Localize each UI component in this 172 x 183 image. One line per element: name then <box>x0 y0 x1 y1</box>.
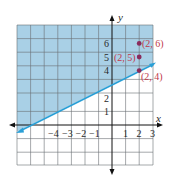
graph: y x −4 −3 −2 −1 1 2 3 1 2 4 5 6 (2, 6) (… <box>0 0 172 183</box>
svg-text:5: 5 <box>104 52 109 63</box>
x-axis-label: x <box>155 112 161 124</box>
svg-text:−1: −1 <box>89 128 100 139</box>
svg-text:1: 1 <box>123 128 128 139</box>
point-label-2-5: (2, 5) <box>114 52 136 64</box>
svg-text:4: 4 <box>104 65 109 76</box>
point-label-2-6: (2, 6) <box>142 38 164 50</box>
svg-text:2: 2 <box>104 93 109 104</box>
point-label-2-4: (2, 4) <box>141 71 163 83</box>
y-axis-label: y <box>117 11 123 23</box>
svg-text:3: 3 <box>150 128 155 139</box>
svg-text:−4: −4 <box>48 128 59 139</box>
svg-text:−3: −3 <box>62 128 73 139</box>
x-tick-labels: −4 −3 −2 −1 1 2 3 <box>48 128 155 139</box>
svg-text:6: 6 <box>104 38 109 49</box>
svg-text:2: 2 <box>137 128 142 139</box>
svg-text:1: 1 <box>104 106 109 117</box>
svg-text:−2: −2 <box>76 128 87 139</box>
point-2-6 <box>137 41 142 46</box>
point-2-5 <box>137 55 142 60</box>
